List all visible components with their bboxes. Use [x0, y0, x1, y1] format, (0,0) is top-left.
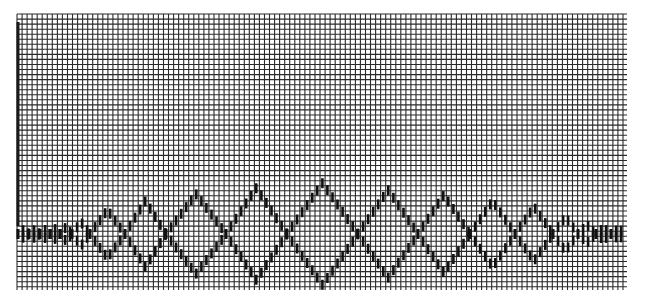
stitch-mark	[489, 259, 492, 269]
stitch-mark	[280, 237, 283, 247]
stitch-mark	[321, 178, 324, 188]
stitch-mark	[149, 254, 152, 264]
stitch-mark	[457, 246, 460, 256]
stitch-mark	[81, 240, 84, 250]
stitch-mark	[524, 215, 527, 225]
stitch-mark	[372, 251, 375, 261]
stitch-mark	[89, 229, 92, 239]
stitch-mark	[494, 200, 497, 210]
stitch-mark	[104, 250, 107, 260]
stitch-mark	[509, 236, 512, 246]
stitch-mark	[427, 244, 430, 254]
stitch-mark	[54, 234, 57, 244]
stitch-mark	[321, 280, 324, 290]
stitch-mark	[170, 236, 173, 246]
stitch-mark	[220, 223, 223, 233]
stitch-mark	[175, 243, 178, 253]
stitch-mark	[572, 236, 575, 246]
stitch-mark	[484, 207, 487, 217]
stitch-mark	[119, 223, 122, 233]
stitch-mark	[447, 262, 450, 272]
pattern-chart	[0, 0, 645, 304]
stitch-mark	[367, 214, 370, 224]
stitch-mark	[134, 213, 137, 223]
stitch-mark	[255, 275, 258, 285]
stitch-mark	[504, 215, 507, 225]
stitch-mark	[442, 191, 445, 201]
stitch-mark	[144, 262, 147, 272]
stitch-mark	[316, 273, 319, 283]
stitch-mark	[615, 232, 618, 242]
stitch-mark	[195, 189, 198, 199]
stitch-mark	[159, 220, 162, 230]
stitch-mark	[200, 196, 203, 206]
stitch-mark	[71, 229, 74, 239]
stitch-mark	[265, 260, 268, 270]
stitch-mark	[190, 195, 193, 205]
stitch-mark	[76, 236, 79, 246]
stitch-mark	[76, 222, 79, 232]
stitch-mark	[367, 244, 370, 254]
stitch-mark	[215, 242, 218, 252]
stitch-mark	[534, 204, 537, 214]
stitch-mark	[235, 244, 238, 254]
grid-lines	[17, 14, 627, 290]
stitch-mark	[311, 265, 314, 275]
stitch-mark	[499, 251, 502, 261]
stitch-mark	[170, 222, 173, 232]
stitch-mark	[351, 237, 354, 247]
stitch-mark	[504, 243, 507, 253]
stitch-mark	[402, 250, 405, 260]
stitch-mark	[286, 229, 289, 239]
stitch-mark	[397, 200, 400, 210]
stitch-mark	[165, 229, 168, 239]
stitch-mark	[316, 186, 319, 196]
stitch-mark	[417, 229, 420, 239]
stitch-mark	[205, 255, 208, 265]
stitch-mark	[377, 199, 380, 209]
stitch-mark	[587, 237, 590, 247]
stitch-mark	[33, 233, 36, 243]
stitch-mark	[185, 256, 188, 266]
stitch-mark	[225, 229, 228, 239]
stitch-mark	[99, 243, 102, 253]
stitch-mark	[159, 238, 162, 248]
stitch-mark	[407, 243, 410, 253]
stitch-mark	[235, 214, 238, 224]
stitch-mark	[291, 222, 294, 232]
stitch-mark	[210, 248, 213, 258]
stitch-mark	[539, 211, 542, 221]
stitch-mark	[377, 259, 380, 269]
stitch-mark	[129, 221, 132, 231]
stitch-mark	[124, 229, 127, 239]
stitch-mark	[427, 214, 430, 224]
stitch-mark	[44, 233, 47, 243]
stitch-mark	[346, 244, 349, 254]
stitch-mark	[462, 219, 465, 229]
stitch-mark	[205, 203, 208, 213]
stitch-mark	[524, 243, 527, 253]
stitch-mark	[402, 208, 405, 218]
stitch-mark	[447, 197, 450, 207]
stitch-mark	[144, 197, 147, 207]
stitch-mark	[382, 266, 385, 276]
stitch-mark	[529, 208, 532, 218]
stitch-mark	[265, 198, 268, 208]
stitch-mark	[519, 222, 522, 232]
stitch-mark	[605, 233, 608, 243]
stitch-mark	[250, 267, 253, 277]
stitch-mark	[139, 205, 142, 215]
stitch-mark	[255, 183, 258, 193]
stitch-mark	[474, 236, 477, 246]
stitch-mark	[592, 232, 595, 242]
stitch-mark	[22, 233, 25, 243]
stitch-mark	[572, 223, 575, 233]
stitch-mark	[154, 212, 157, 222]
stitch-mark	[432, 206, 435, 216]
stitch-mark	[215, 216, 218, 226]
stitch-mark	[326, 273, 329, 283]
stitch-mark	[442, 267, 445, 277]
stitch-mark	[306, 200, 309, 210]
stitch-mark	[387, 185, 390, 195]
stitch-mark	[514, 229, 517, 239]
